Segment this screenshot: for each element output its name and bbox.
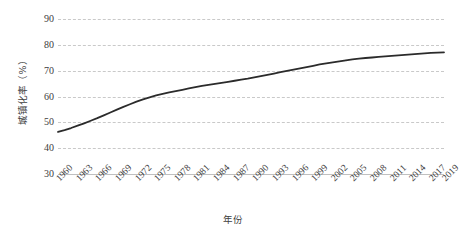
- series-urbanization-rate: [58, 19, 444, 174]
- urbanization-rate-line-chart: 城镇化率（%） 90807060504030 19601963196619691…: [0, 0, 466, 235]
- y-tick-label-80: 80: [30, 40, 54, 50]
- series-line: [58, 52, 444, 132]
- y-axis-tick-labels: 90807060504030: [30, 0, 54, 190]
- y-tick-label-40: 40: [30, 143, 54, 153]
- x-axis-title: 年份: [0, 212, 466, 226]
- y-tick-label-70: 70: [30, 66, 54, 76]
- y-tick-label-60: 60: [30, 92, 54, 102]
- y-tick-label-90: 90: [30, 14, 54, 24]
- y-axis-title-text: 城镇化率（%）: [15, 55, 29, 124]
- plot-area: [58, 19, 444, 174]
- x-axis-tick-labels: 1960196319661969197219751978198119841987…: [58, 176, 450, 216]
- y-tick-label-30: 30: [30, 169, 54, 179]
- y-tick-label-50: 50: [30, 117, 54, 127]
